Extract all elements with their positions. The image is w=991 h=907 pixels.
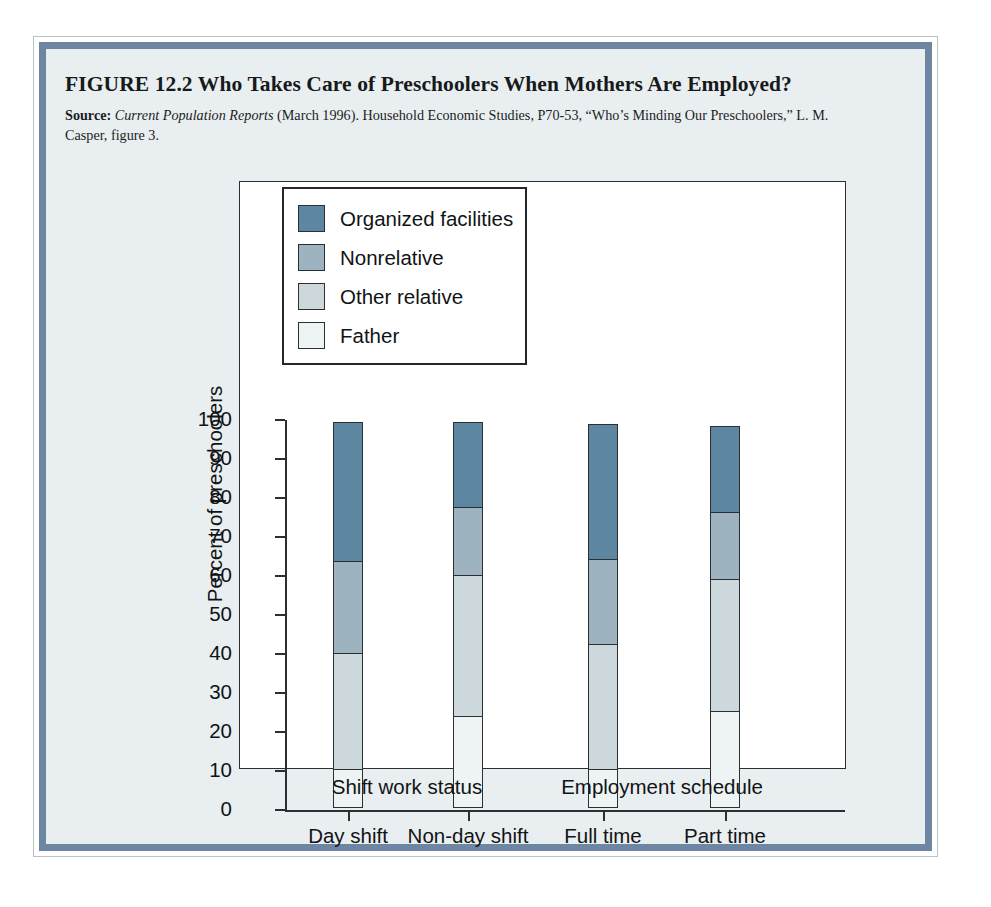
y-axis-tick xyxy=(275,536,285,538)
group-label: Employment schedule xyxy=(502,775,822,799)
bar-segment xyxy=(588,644,618,771)
bar-non-day-shift xyxy=(453,422,483,808)
x-axis-tick xyxy=(603,812,605,821)
x-axis-line xyxy=(285,810,845,812)
legend-label-organized-facilities: Organized facilities xyxy=(340,207,513,231)
figure-inner-panel: FIGURE 12.2 Who Takes Care of Preschoole… xyxy=(46,49,925,844)
legend-item-father: Father xyxy=(298,316,525,355)
caption-block: FIGURE 12.2 Who Takes Care of Preschoole… xyxy=(65,72,910,145)
bar-segment xyxy=(453,575,483,717)
legend-swatch-other-relative xyxy=(298,283,325,310)
y-axis-tick xyxy=(275,458,285,460)
figure-source: Source: Current Population Reports (Marc… xyxy=(65,106,865,145)
bar-part-time xyxy=(710,426,740,808)
bar-segment xyxy=(333,653,363,770)
x-axis-tick xyxy=(725,812,727,821)
bar-segment xyxy=(588,559,618,645)
figure-page: FIGURE 12.2 Who Takes Care of Preschoole… xyxy=(0,0,991,907)
legend-swatch-nonrelative xyxy=(298,244,325,271)
bar-segment xyxy=(588,424,618,561)
figure-border: FIGURE 12.2 Who Takes Care of Preschoole… xyxy=(39,42,932,851)
bar-segment xyxy=(453,507,483,577)
y-axis-tick-label: 0 xyxy=(172,799,232,820)
legend-label-other-relative: Other relative xyxy=(340,285,463,309)
y-axis-tick-label: 10 xyxy=(172,760,232,781)
bar-segment xyxy=(453,422,483,508)
chart-legend: Organized facilities Nonrelative Other r… xyxy=(282,187,527,365)
legend-swatch-organized-facilities xyxy=(298,205,325,232)
y-axis-tick xyxy=(275,419,285,421)
bar-segment xyxy=(333,561,363,655)
y-axis-tick xyxy=(275,614,285,616)
bar-segment xyxy=(333,422,363,562)
source-publication: Current Population Reports xyxy=(115,107,274,123)
bar-full-time xyxy=(588,424,618,808)
y-axis-title: Percent of preschoolers xyxy=(203,284,227,704)
bar-segment xyxy=(710,579,740,712)
legend-item-other-relative: Other relative xyxy=(298,277,525,316)
bar-segment xyxy=(710,426,740,514)
legend-item-nonrelative: Nonrelative xyxy=(298,238,525,277)
figure-title: FIGURE 12.2 Who Takes Care of Preschoole… xyxy=(65,72,910,97)
y-axis-tick xyxy=(275,575,285,577)
y-axis-tick-label: 20 xyxy=(172,721,232,742)
y-axis-tick xyxy=(275,731,285,733)
legend-label-nonrelative: Nonrelative xyxy=(340,246,444,270)
x-axis-tick xyxy=(348,812,350,821)
bar-day-shift xyxy=(333,422,363,808)
y-axis-tick xyxy=(275,653,285,655)
legend-label-father: Father xyxy=(340,324,399,348)
chart-plot-panel: Organized facilities Nonrelative Other r… xyxy=(239,181,846,769)
y-axis-tick xyxy=(275,692,285,694)
legend-swatch-father xyxy=(298,322,325,349)
y-axis-tick xyxy=(275,770,285,772)
bar-segment xyxy=(710,512,740,580)
x-axis-tick-label: Part time xyxy=(635,824,815,848)
y-axis-tick xyxy=(275,809,285,811)
x-axis-tick xyxy=(468,812,470,821)
y-axis-tick xyxy=(275,497,285,499)
legend-item-organized-facilities: Organized facilities xyxy=(298,199,525,238)
source-label: Source: xyxy=(65,107,111,123)
y-axis-line xyxy=(285,420,287,812)
